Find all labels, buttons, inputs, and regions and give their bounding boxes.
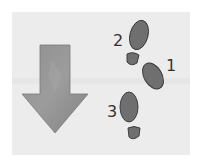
footprint-label-2: 2	[113, 33, 123, 49]
down-arrow-icon	[22, 45, 88, 133]
footprint-2-icon	[126, 18, 151, 65]
footprint-label-1: 1	[166, 58, 176, 74]
footprint-label-3: 3	[107, 104, 117, 120]
footprint-1-icon	[138, 59, 168, 92]
illustration-canvas	[0, 0, 198, 160]
footprint-3-icon	[120, 92, 140, 139]
